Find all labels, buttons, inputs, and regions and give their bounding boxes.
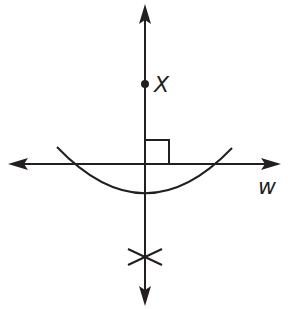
point-x-label: X <box>153 72 170 97</box>
perpendicular-line <box>139 4 151 306</box>
perpendicular-construction-diagram: X w <box>0 0 288 309</box>
line-w-label: w <box>258 174 277 199</box>
point-x <box>141 80 149 88</box>
right-angle-marker <box>145 140 169 164</box>
